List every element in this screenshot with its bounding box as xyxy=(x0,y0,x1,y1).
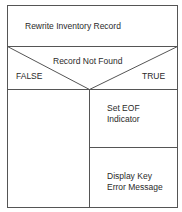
true-step-2: Display Key Error Message xyxy=(107,171,163,193)
decision-right-diagonal xyxy=(90,47,178,90)
process-label: Rewrite Inventory Record xyxy=(25,21,121,32)
true-step-1-line2: Indicator xyxy=(107,114,140,125)
true-step-2-line1: Display Key xyxy=(107,171,163,182)
true-step-2-line2: Error Message xyxy=(107,182,163,193)
true-step-1: Set EOF Indicator xyxy=(107,103,140,125)
decision-left-diagonal xyxy=(8,47,90,90)
decision-condition: Record Not Found xyxy=(53,56,122,67)
true-step-1-line1: Set EOF xyxy=(107,103,140,114)
false-label: FALSE xyxy=(16,71,42,82)
true-label: TRUE xyxy=(142,71,165,82)
